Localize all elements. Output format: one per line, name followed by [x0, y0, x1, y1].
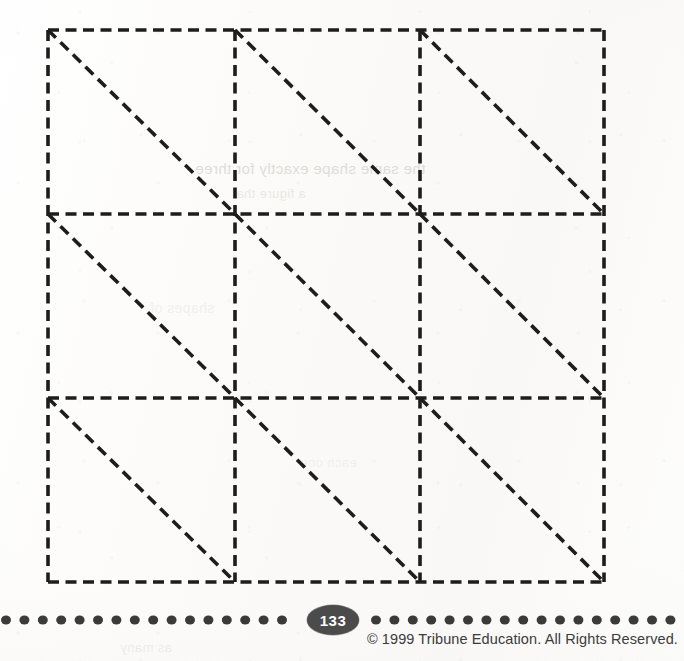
- cell-diagonal-r2c0: [48, 398, 235, 582]
- divider-dot: [408, 615, 418, 624]
- divider-dot: [1, 615, 11, 624]
- worksheet-paper: the same shape exactly for three a figur…: [0, 0, 684, 661]
- grid-figure: [0, 0, 684, 600]
- divider-dot: [56, 615, 66, 624]
- divider-dot: [629, 615, 639, 624]
- divider-dot: [647, 615, 657, 624]
- divider-dot: [518, 615, 528, 624]
- divider-dot: [610, 615, 620, 624]
- divider-dot: [111, 615, 121, 624]
- divider-dot: [130, 615, 140, 624]
- divider-dot: [277, 615, 287, 624]
- divider-dot: [203, 615, 213, 624]
- cell-diagonal-r0c0: [48, 30, 235, 214]
- page-number-badge: 133: [307, 605, 359, 635]
- divider-dot: [537, 615, 547, 624]
- divider-dot: [19, 615, 29, 624]
- cell-diagonal-r0c2: [420, 30, 604, 214]
- cell-diagonal-r2c2: [420, 398, 604, 582]
- divider-dot: [222, 615, 232, 624]
- divider-dot: [167, 615, 177, 624]
- divider-dot: [555, 615, 565, 624]
- divider-dot: [592, 615, 602, 624]
- divider-dot: [426, 615, 436, 624]
- divider-dot: [38, 615, 48, 624]
- divider-dot: [371, 615, 381, 624]
- divider-dot: [481, 615, 491, 624]
- divider-dot: [573, 615, 583, 624]
- divider-dot: [240, 615, 250, 624]
- copyright-notice: © 1999 Tribune Education. All Rights Res…: [367, 631, 678, 647]
- cell-diagonal-r1c1: [235, 214, 420, 398]
- divider-dot: [93, 615, 103, 624]
- cell-diagonal-r0c1: [235, 30, 420, 214]
- divider-dot: [259, 615, 269, 624]
- divider-dot: [75, 615, 85, 624]
- grid-figure-lines: [48, 30, 604, 582]
- cell-diagonal-r2c1: [235, 398, 420, 582]
- cell-diagonal-r1c0: [48, 214, 235, 398]
- divider-dot: [500, 615, 510, 624]
- divider-dot: [389, 615, 399, 624]
- divider-dot: [185, 615, 195, 624]
- divider-dot: [665, 615, 675, 624]
- cell-diagonal-r1c2: [420, 214, 604, 398]
- divider-dot: [463, 615, 473, 624]
- divider-dot: [148, 615, 158, 624]
- divider-dot: [445, 615, 455, 624]
- page-number-label: 133: [320, 612, 347, 629]
